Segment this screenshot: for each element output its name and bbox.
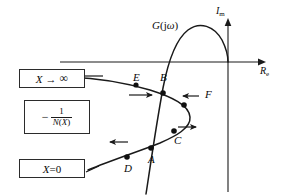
point-label-C: C <box>174 135 181 146</box>
fraction-denominator: N(X) <box>51 118 73 127</box>
point-dot-A <box>148 145 154 151</box>
point-dot-C <box>171 128 177 134</box>
annotation-box-x-equals-zero: X=0 <box>19 159 85 178</box>
g-jw-curve-label: G(jω) <box>152 20 178 31</box>
point-label-F: F <box>205 89 212 100</box>
imaginary-axis <box>225 18 232 192</box>
minus-sign: − <box>42 110 49 125</box>
point-label-D: D <box>124 163 132 174</box>
point-label-A: A <box>148 154 155 165</box>
infinity-symbol: ∞ <box>60 71 69 86</box>
point-label-B: B <box>160 72 167 83</box>
point-dot-B <box>160 90 166 96</box>
real-axis-label: Re <box>260 66 269 78</box>
marker-dots <box>124 82 187 159</box>
x-to-infinity-variable: X <box>36 73 43 85</box>
figure-canvas: Im Re G(jω) E B F C A D X → ∞ − 1 N(X) X… <box>0 0 284 196</box>
point-dot-D <box>124 154 130 160</box>
fraction-negative-inverse-n: 1 N(X) <box>51 107 73 127</box>
imaginary-axis-label: Im <box>216 6 225 18</box>
annotation-box-negative-inverse-n: − 1 N(X) <box>24 100 90 134</box>
real-axis <box>60 59 266 66</box>
right-arrow-icon: → <box>46 73 57 85</box>
fraction-numerator: 1 <box>56 107 67 116</box>
annotation-box-x-to-infinity: X → ∞ <box>19 69 85 88</box>
point-dot-E <box>133 82 138 87</box>
x-zero-variable: X <box>43 163 50 175</box>
box-leader-lines <box>86 166 99 172</box>
point-dot-F <box>181 102 187 108</box>
x-zero-value: 0 <box>56 163 62 175</box>
point-label-E: E <box>133 72 140 83</box>
leader-x-zero <box>86 166 99 172</box>
